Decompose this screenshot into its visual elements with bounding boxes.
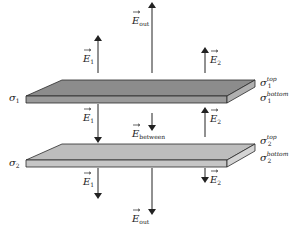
plate-1-top-face [26,80,255,96]
plate-2-top-face [26,144,255,160]
svg-text:E2: E2 [209,54,221,66]
e2-below-label: E2 [209,170,221,186]
e1-below-label: E1 [82,172,94,188]
e2-between-label: E2 [209,109,221,125]
arrows-below [98,168,205,212]
sigma2-bottom-label: σbottom2 [260,150,289,164]
plate-2-front-face [26,160,227,167]
plate-1 [26,80,255,103]
svg-text:E2: E2 [209,113,221,125]
e2-above-label: E2 [209,50,221,66]
svg-text:Ebetween: Ebetween [131,128,165,140]
svg-text:Eout: Eout [131,213,150,225]
arrows-above [98,5,205,73]
eout-top-label: Eout [131,11,150,27]
svg-text:E2: E2 [209,174,221,186]
sigma1-top-label: σtop1 [260,75,277,89]
plate-1-front-face [26,96,227,103]
eout-sub: out [139,20,149,27]
plate-2 [26,144,255,167]
svg-text:Eout: Eout [131,15,150,27]
parallel-plates-diagram: Eout E1 E2 E1 Ebetween E2 E1 E2 Eout σ1 … [0,0,301,233]
sigma1-bottom-label: σbottom1 [260,90,289,104]
sigma2-label: σ2 [9,157,20,169]
eout-bottom-label: Eout [131,209,150,225]
svg-text:E1: E1 [82,53,94,65]
sigma1-label: σ1 [9,92,20,104]
svg-text:E1: E1 [82,176,94,188]
sigma2-top-label: σtop2 [260,133,277,147]
e1-between-label: E1 [82,108,94,124]
ebetween-label: Ebetween [131,124,165,140]
e1-above-label: E1 [82,49,94,65]
svg-text:E1: E1 [82,112,94,124]
